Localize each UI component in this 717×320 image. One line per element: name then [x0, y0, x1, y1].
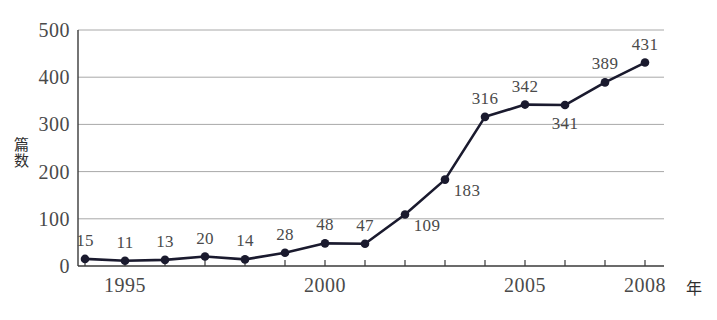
x-axis-tick-label: 2008 — [624, 274, 666, 297]
data-point-label: 342 — [512, 77, 538, 97]
data-point-label: 316 — [472, 89, 498, 109]
line-chart: 0100200300400500 1995200020052008 151113… — [0, 0, 717, 320]
x-axis-tick-label: 1995 — [104, 274, 146, 297]
data-point-label: 14 — [236, 231, 254, 251]
data-point-marker — [641, 58, 650, 67]
data-point-label: 109 — [414, 216, 440, 236]
data-point-label: 20 — [196, 229, 214, 249]
x-axis-title: 年 — [686, 275, 702, 299]
data-point-marker — [441, 175, 450, 184]
data-point-marker — [201, 252, 210, 261]
x-axis-tick-label: 2005 — [504, 274, 546, 297]
data-point-marker — [281, 248, 290, 257]
data-point-marker — [121, 257, 130, 266]
data-point-label: 13 — [156, 232, 174, 252]
data-point-label: 11 — [117, 233, 134, 253]
y-axis-title: 篇 数 — [10, 138, 32, 170]
data-point-marker — [521, 100, 530, 109]
x-axis-tick-label: 2000 — [304, 274, 346, 297]
data-point-marker — [321, 239, 330, 248]
data-point-marker — [601, 78, 610, 87]
data-point-label: 183 — [454, 181, 480, 201]
y-axis-tick-label: 400 — [8, 66, 70, 89]
y-axis-tick-label: 100 — [8, 207, 70, 230]
data-point-marker — [401, 210, 410, 219]
y-axis-tick-label: 500 — [8, 19, 70, 42]
data-point-marker — [161, 256, 170, 265]
y-axis-tick-label: 0 — [8, 255, 70, 278]
data-point-marker — [561, 101, 570, 110]
chart-plot-area — [0, 0, 717, 320]
data-point-marker — [81, 255, 90, 264]
data-point-label: 15 — [76, 231, 94, 251]
data-point-marker — [241, 255, 250, 264]
data-point-label: 28 — [276, 225, 294, 245]
data-point-label: 431 — [632, 35, 658, 55]
data-point-label: 341 — [552, 114, 578, 134]
data-point-marker — [361, 240, 370, 249]
y-axis-title-char-2: 数 — [10, 154, 32, 170]
data-point-label: 48 — [316, 215, 334, 235]
data-point-marker — [481, 113, 490, 122]
data-point-label: 389 — [592, 54, 618, 74]
data-point-label: 47 — [356, 216, 374, 236]
y-axis-tick-label: 300 — [8, 113, 70, 136]
